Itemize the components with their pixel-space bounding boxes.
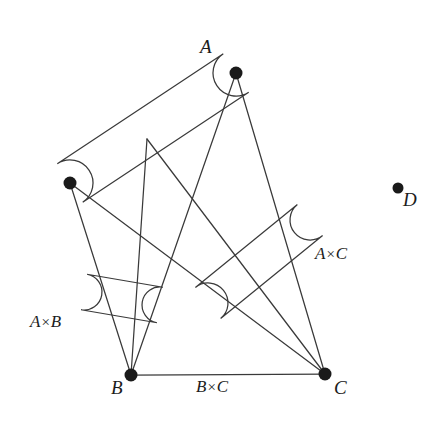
vertex-c: [319, 368, 332, 381]
edge-a-top-to-b: [131, 73, 236, 375]
edge-mid-to-b: [131, 139, 147, 375]
edge-label-ac-right: C: [336, 244, 347, 263]
vertex-group: [64, 67, 404, 382]
vertex-a-left: [64, 177, 77, 190]
graph-diagram-figure: A B C D A×B A×C B×C: [0, 0, 434, 437]
capsule-ab: [81, 274, 163, 322]
vertex-b: [125, 369, 138, 382]
times-icon: ×: [206, 379, 216, 395]
edge-group: [70, 73, 325, 375]
edge-label-ab-left: A: [30, 312, 40, 331]
vertex-label-c: C: [334, 378, 347, 397]
edge-label-ab-right: B: [51, 312, 61, 331]
edge-label-bc-right: C: [217, 377, 228, 396]
edge-label-bc: B×C: [196, 378, 228, 395]
edge-a-top-to-c: [236, 73, 325, 374]
times-icon: ×: [325, 246, 335, 262]
edge-b-to-c: [131, 374, 325, 375]
edge-label-bc-left: B: [196, 377, 206, 396]
edge-mid-to-c: [147, 139, 325, 374]
vertex-label-d: D: [403, 190, 417, 209]
edge-label-ac-left: A: [315, 244, 325, 263]
times-icon: ×: [40, 314, 50, 330]
capsule-a: [57, 54, 248, 202]
capsule-group: [57, 54, 322, 323]
vertex-d: [393, 183, 404, 194]
vertex-label-a: A: [200, 37, 212, 56]
vertex-a-top: [230, 67, 243, 80]
diagram-canvas: [0, 0, 434, 437]
vertex-label-b: B: [111, 378, 123, 397]
edge-a-left-to-b: [70, 183, 131, 375]
edge-label-ac: A×C: [315, 245, 347, 262]
edge-label-ab: A×B: [30, 313, 61, 330]
